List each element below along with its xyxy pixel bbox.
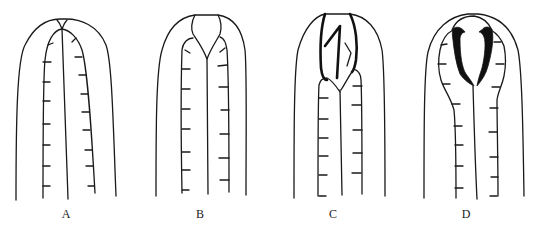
panel-d-left-inner-wall: [439, 30, 456, 198]
panel-b-outer-wall: [156, 15, 246, 196]
panel-c-left-ticks: [319, 98, 328, 196]
panel-b-right-inner-wall: [220, 37, 229, 192]
panel-b-drawing: [156, 15, 246, 196]
panel-d-right-fork: [477, 27, 493, 86]
panel-a-center-line: [62, 29, 68, 199]
panel-a-apex-triangle: [57, 20, 67, 29]
panel-b-bulb: [192, 15, 221, 59]
panel-c-right-blade: [345, 43, 351, 66]
panel-c-right-inner-wall: [341, 69, 362, 194]
panel-d-drawing: [424, 14, 524, 199]
panel-c-left-blade: [325, 26, 340, 78]
panel-label-b: B: [196, 207, 204, 222]
panel-c-left-inner-wall: [318, 78, 340, 196]
panel-c-spindle-left: [320, 14, 327, 80]
panel-a-outer-wall: [16, 19, 116, 200]
panel-a-inner-wall: [43, 29, 95, 198]
panel-c-right-ticks: [352, 86, 362, 173]
panel-a-drawing: [16, 19, 116, 200]
panel-d-right-ticks: [489, 42, 504, 196]
panel-label-a: A: [62, 207, 71, 222]
panel-d-right-inner-wall: [491, 30, 506, 196]
diagram-canvas: [0, 0, 538, 236]
panel-d-left-fork: [452, 27, 474, 86]
panel-c-center-line: [340, 90, 342, 195]
panel-d-center-line: [473, 86, 477, 199]
panel-b-left-ticks: [182, 50, 190, 190]
panel-label-d: D: [462, 207, 471, 222]
panel-a-right-ticks: [72, 38, 94, 186]
panel-label-c: C: [329, 207, 337, 222]
panel-b-center-line: [207, 59, 208, 194]
panel-c-spindle-right: [350, 14, 357, 72]
panel-c-drawing: [294, 14, 385, 198]
